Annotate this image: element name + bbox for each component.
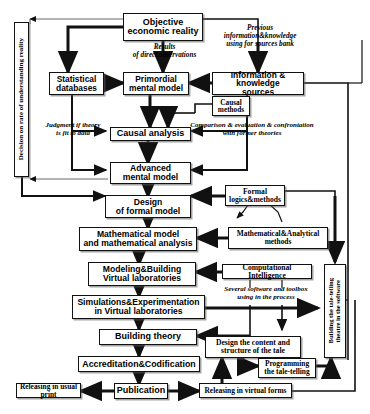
node-building-theory-label: Building theory [100,332,196,341]
node-design-content-structure-tale[interactable]: Design the content and structure of the … [205,336,301,358]
node-causal-methods[interactable]: Causal methods [212,96,250,116]
node-mathematical-model[interactable]: Mathematical model and mathematical anal… [79,227,197,251]
node-releasing-usual-print[interactable]: Releasing in usual print [16,383,81,398]
node-simulations-experimentation-label: Simulations&Experimentation in Virtual l… [73,298,204,316]
node-publication-label: Publication [115,386,167,395]
node-design-content-structure-tale-label: Design the content and structure of the … [206,339,300,354]
node-computational-intelligence-label: Computational Intelligence [223,264,311,279]
node-statistical-databases-label: Statistical databases [50,75,103,92]
node-decision-on-rate-label: Decision on rate of understanding realit… [18,38,25,160]
node-mathematical-analytical-methods-label: Mathematical&Analytical methods [229,230,327,245]
node-programming-tale-telling-label: Programming the tale-telling [259,360,315,375]
node-accreditation-codification[interactable]: Accreditation&Codification [78,356,200,372]
annotation-judgment-if-theory: Judgment if theory is fit to data [33,122,113,137]
node-formal-logics-methods-label: Formal logics&methods [226,188,284,203]
node-modeling-building-virtual-laboratories-label: Modeling&Building Virtual laboratories [89,265,195,283]
node-primordial-mental-model[interactable]: Primordial mental model [123,72,189,95]
node-programming-tale-telling[interactable]: Programming the tale-telling [258,358,316,378]
node-accreditation-codification-label: Accreditation&Codification [79,360,199,369]
node-releasing-virtual-forms-label: Releasing in virtual forms [200,387,291,395]
node-releasing-usual-print-label: Releasing in usual print [17,383,80,398]
node-design-of-formal-model[interactable]: Design of formal model [105,195,191,218]
node-decision-on-rate[interactable]: Decision on rate of understanding realit… [14,22,29,177]
node-formal-logics-methods[interactable]: Formal logics&methods [225,185,285,206]
node-building-tale-telling-theatre-line2: theatre in the software [335,280,342,342]
node-mathematical-analytical-methods[interactable]: Mathematical&Analytical methods [228,227,328,249]
node-advanced-mental-model[interactable]: Advanced mental model [110,162,191,184]
node-information-knowledge-sources[interactable]: Information & knowledge sources [212,72,304,95]
node-building-tale-telling-theatre[interactable]: Building the tale-telling theatre in the… [324,264,346,358]
node-statistical-databases[interactable]: Statistical databases [49,72,104,95]
node-publication[interactable]: Publication [114,383,168,399]
node-computational-intelligence[interactable]: Computational Intelligence [222,264,312,279]
node-information-knowledge-sources-label: Information & knowledge sources [213,71,303,97]
node-building-theory[interactable]: Building theory [99,329,197,345]
node-objective-economic-reality[interactable]: Objective economic reality [123,13,203,41]
node-primordial-mental-model-label: Primordial mental model [124,75,188,92]
annotation-previous-information: Previous information&knowledge using for… [204,25,316,48]
node-releasing-virtual-forms[interactable]: Releasing in virtual forms [199,383,292,398]
annotation-comparison-evaluation: Comparison & evaluation & confrontation … [152,122,352,137]
node-mathematical-model-label: Mathematical model and mathematical anal… [80,230,196,248]
node-causal-methods-label: Causal methods [213,99,249,114]
node-modeling-building-virtual-laboratories[interactable]: Modeling&Building Virtual laboratories [88,262,196,286]
node-design-of-formal-model-label: Design of formal model [106,198,190,216]
annotation-several-software: Several software and toolbox using in th… [196,286,336,301]
node-advanced-mental-model-label: Advanced mental model [111,164,190,182]
flowchart-canvas: Decision on rate of understanding realit… [0,0,370,414]
node-simulations-experimentation[interactable]: Simulations&Experimentation in Virtual l… [72,295,205,319]
node-objective-economic-reality-label: Objective economic reality [124,18,202,36]
